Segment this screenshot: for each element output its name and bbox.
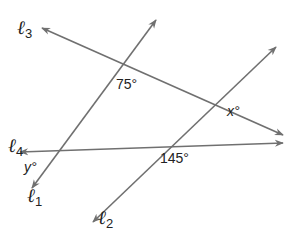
angle-label-y: y°: [24, 160, 37, 174]
line-l3: [42, 28, 283, 135]
line-subscript: 2: [106, 216, 113, 231]
line-l4: [20, 143, 283, 152]
angle-label-145: 145°: [160, 151, 189, 165]
angle-label-75: 75°: [116, 77, 137, 91]
angle-label-x: x°: [227, 104, 240, 118]
line-letter: ℓ: [98, 207, 106, 228]
line-subscript: 4: [16, 144, 23, 159]
line-letter: ℓ: [8, 135, 16, 156]
line-label-l3: ℓ3: [17, 18, 32, 40]
line-label-l1: ℓ1: [27, 186, 42, 208]
lines-diagram: [0, 0, 295, 245]
line-letter: ℓ: [17, 17, 25, 38]
line-letter: ℓ: [27, 185, 35, 206]
line-label-l4: ℓ4: [8, 136, 23, 158]
line-subscript: 1: [35, 194, 42, 209]
line-label-l2: ℓ2: [98, 208, 113, 230]
line-subscript: 3: [25, 26, 32, 41]
diagram-canvas: ℓ3 ℓ4 ℓ1 ℓ2 75° x° 145° y°: [0, 0, 295, 245]
line-l2: [93, 47, 276, 222]
line-l1: [32, 20, 156, 188]
